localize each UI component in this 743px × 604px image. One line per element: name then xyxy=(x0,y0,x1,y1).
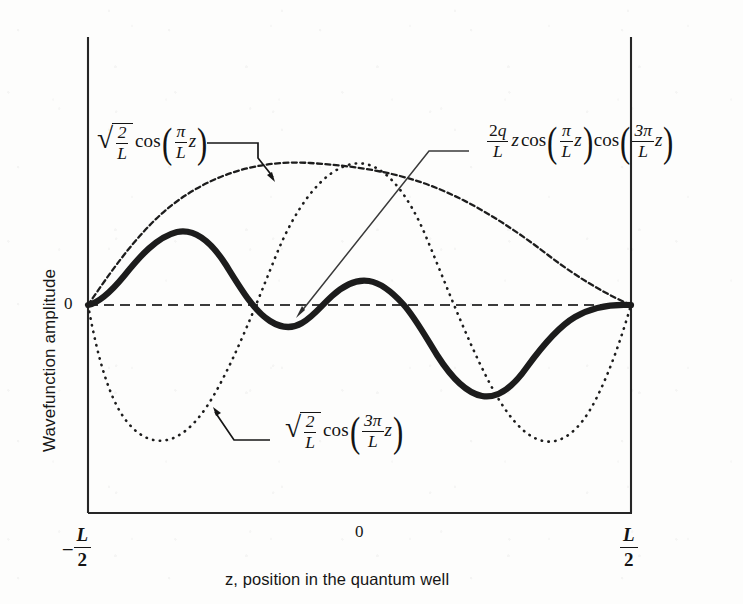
cos-operator-2: cos xyxy=(594,129,619,150)
x-tick-label-minus-L-over-2: – L 2 xyxy=(63,524,91,571)
annotation-perturbation: 2qLzcos(πLz)cos(3πLz) xyxy=(486,123,675,161)
paren-close: ) xyxy=(197,132,207,154)
variable-z: z xyxy=(574,129,581,150)
paren-open-1: ( xyxy=(547,131,557,153)
radical-icon: √ xyxy=(285,414,301,454)
fraction-pi-over-L: πL xyxy=(174,123,188,161)
y-axis-title: Wavefunction amplitude xyxy=(40,269,60,452)
fraction-numerator: π xyxy=(560,122,573,141)
fraction-L-over-2: L 2 xyxy=(74,524,92,571)
fraction-numerator: 2q xyxy=(487,122,508,141)
x-axis-title: z, position in the quantum well xyxy=(225,570,449,589)
fraction-numerator: L xyxy=(620,524,638,548)
minus-sign: – xyxy=(63,537,73,559)
figure-root: √2Lcos(πLz) 2qLzcos(πLz)cos(3πLz) √2Lcos… xyxy=(0,0,743,604)
arrowhead-cos-pi xyxy=(267,172,275,182)
paren-close: ) xyxy=(393,421,403,443)
fraction-denominator: L xyxy=(303,433,317,451)
paren-close-2: ) xyxy=(663,131,673,153)
arrowhead-cos-3pi xyxy=(213,407,221,416)
coefficient-2: 2 xyxy=(489,120,498,140)
variable-q: q xyxy=(498,120,507,140)
fraction-denominator: L xyxy=(366,432,380,450)
paren-open: ( xyxy=(162,132,172,154)
leader-line-cos-3pi xyxy=(215,412,270,440)
x-tick-label-zero: 0 xyxy=(355,522,364,542)
variable-z: z xyxy=(511,129,518,150)
fraction-denominator: L xyxy=(115,144,129,162)
fraction-numerator: L xyxy=(74,524,92,548)
sqrt-group: √2L xyxy=(285,412,321,452)
fraction-denominator: L xyxy=(559,142,573,160)
radicand: 2L xyxy=(112,123,133,163)
cos-operator: cos xyxy=(135,130,161,151)
fraction-numerator: 3π xyxy=(362,412,384,431)
fraction-3pi-over-L: 3πL xyxy=(632,122,654,160)
wavefunction-plot xyxy=(0,0,743,604)
leader-line-cos-pi xyxy=(207,143,273,177)
fraction-denominator: 2 xyxy=(621,548,637,571)
fraction-denominator: L xyxy=(174,143,188,161)
fraction-3pi-over-L: 3πL xyxy=(362,412,384,450)
fraction-numerator: 2 xyxy=(116,124,129,143)
curve-cos-3pi xyxy=(88,163,631,441)
fraction-numerator: 3π xyxy=(632,122,654,141)
variable-z: z xyxy=(189,130,196,151)
paren-open-2: ( xyxy=(620,131,630,153)
fraction-denominator: L xyxy=(491,142,505,160)
annotation-cos-pi: √2Lcos(πLz) xyxy=(97,123,208,163)
fraction-numerator: 2 xyxy=(304,413,317,432)
variable-z: z xyxy=(655,129,662,150)
fraction-numerator: π xyxy=(175,123,188,142)
fraction-denominator: L xyxy=(636,142,650,160)
paren-open: ( xyxy=(350,421,360,443)
variable-z: z xyxy=(385,419,392,440)
fraction-2-over-L: 2L xyxy=(303,413,317,451)
annotation-cos-3pi: √2Lcos(3πLz) xyxy=(285,412,404,452)
x-tick-label-L-over-2: L 2 xyxy=(620,524,638,571)
cos-operator: cos xyxy=(323,419,349,440)
y-tick-label-zero: 0 xyxy=(64,294,73,314)
fraction-denominator: 2 xyxy=(75,548,91,571)
fraction-2-over-L: 2L xyxy=(115,124,129,162)
fraction-L-over-2: L 2 xyxy=(620,524,638,571)
radical-icon: √ xyxy=(97,125,113,165)
fraction-pi-over-L: πL xyxy=(559,122,573,160)
sqrt-group: √2L xyxy=(97,123,133,163)
fraction-2q-over-L: 2qL xyxy=(487,122,508,160)
radicand: 2L xyxy=(300,412,321,452)
cos-operator-1: cos xyxy=(521,129,546,150)
paren-close-1: ) xyxy=(583,131,593,153)
